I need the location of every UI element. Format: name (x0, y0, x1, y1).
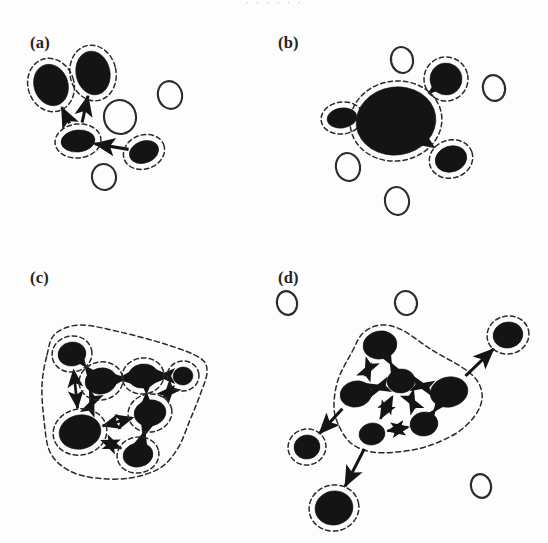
d-edge-core-left--core-center (374, 386, 385, 389)
d-node-core-right[interactable] (427, 373, 470, 410)
a-open-right[interactable] (155, 78, 185, 111)
c-edge-center-right--bottom-mid (143, 432, 145, 437)
d-open-top-left[interactable] (274, 289, 299, 317)
c-node-top-left[interactable] (56, 340, 88, 368)
a-node-upper-right[interactable] (72, 48, 114, 98)
c-edge-top-right--center-right (164, 387, 174, 398)
c-node-top-mid[interactable] (126, 362, 159, 390)
c-edge-center-right--bottom-left (103, 418, 132, 426)
panel-label-b: (b) (278, 33, 299, 52)
a-open-middle[interactable] (101, 97, 138, 136)
figure-root: · · · · · · (a)(b)(c)(d) (0, 0, 548, 543)
network-figure-canvas: (a)(b)(c)(d) (0, 0, 548, 543)
d-edge-core-top--core-center (391, 364, 392, 365)
d-open-bottom-right[interactable] (468, 472, 493, 500)
panel-label-a: (a) (30, 33, 50, 52)
d-edge-core-bottom--periph-bottom (345, 449, 364, 487)
d-node-core-top[interactable] (361, 328, 399, 361)
d-edge-core-right--periph-upper-right (466, 349, 494, 376)
d-node-core-left[interactable] (338, 378, 375, 410)
d-edge-core-center--core-lowmid (410, 397, 416, 407)
c-node-bottom-left[interactable] (56, 411, 104, 453)
a-node-center[interactable] (60, 128, 96, 153)
d-node-periph-left[interactable] (292, 433, 322, 462)
d-node-periph-upper-right[interactable] (491, 319, 526, 351)
b-node-upper-right[interactable] (427, 60, 464, 97)
b-open-lower-left[interactable] (333, 151, 362, 183)
a-edge-center-to-upper-right (82, 96, 88, 123)
c-node-center-right[interactable] (132, 397, 168, 428)
c-edge-bottom-left--bottom-mid (103, 441, 122, 448)
c-node-bottom-mid[interactable] (121, 441, 155, 470)
d-edge-core-lowmid--core-bottom (387, 427, 407, 431)
b-node-super[interactable] (352, 82, 441, 160)
d-edge-core-center--core-right (418, 385, 429, 388)
c-edge-top-left--bottom-left (74, 371, 78, 408)
d-edge-core-right--core-lowmid (435, 409, 436, 410)
d-node-core-center[interactable] (385, 367, 416, 395)
c-node-left-mid[interactable] (83, 365, 120, 397)
c-edge-left-mid--bottom-left (90, 400, 94, 409)
d-edge-core-left--periph-left (319, 409, 342, 434)
node-layer (28, 45, 525, 529)
b-open-top[interactable] (389, 45, 416, 75)
node-halo-layer (21, 41, 533, 536)
cluster-hull-layer (42, 325, 482, 479)
d-node-core-bottom[interactable] (357, 421, 386, 447)
panel-label-d: (d) (278, 268, 299, 287)
b-open-far-right[interactable] (480, 73, 508, 104)
b-node-left[interactable] (326, 106, 358, 130)
d-node-periph-bottom[interactable] (312, 487, 356, 528)
a-open-bottom[interactable] (90, 162, 119, 192)
c-node-top-right[interactable] (172, 366, 194, 387)
panel-label-c: (c) (30, 268, 49, 287)
d-node-core-lowmid[interactable] (408, 410, 440, 438)
d-edge-core-center--core-bottom (380, 397, 392, 419)
d-open-top-mid[interactable] (393, 289, 420, 317)
b-open-bottom[interactable] (383, 185, 411, 217)
a-node-right[interactable] (126, 137, 162, 168)
d-edge-core-top--core-left (365, 364, 371, 376)
b-node-lower-right[interactable] (432, 142, 470, 177)
